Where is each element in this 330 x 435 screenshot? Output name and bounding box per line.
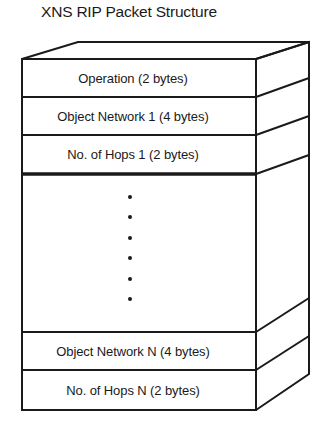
field-object-network-1: Object Network 1 (4 bytes) (22, 97, 256, 135)
field-object-network-n: Object Network N (4 bytes) (22, 332, 256, 370)
field-hops-n: No. of Hops N (2 bytes) (22, 370, 256, 410)
ellipsis-dot (128, 215, 132, 219)
ellipsis-dot (128, 256, 132, 260)
field-hops-1: No. of Hops 1 (2 bytes) (22, 135, 256, 174)
ellipsis-dot (128, 297, 132, 301)
ellipsis-dot (128, 277, 132, 281)
box-right-face (256, 42, 309, 410)
ellipsis-dot (128, 195, 132, 199)
field-operation: Operation (2 bytes) (22, 59, 256, 97)
ellipsis-dot (128, 236, 132, 240)
